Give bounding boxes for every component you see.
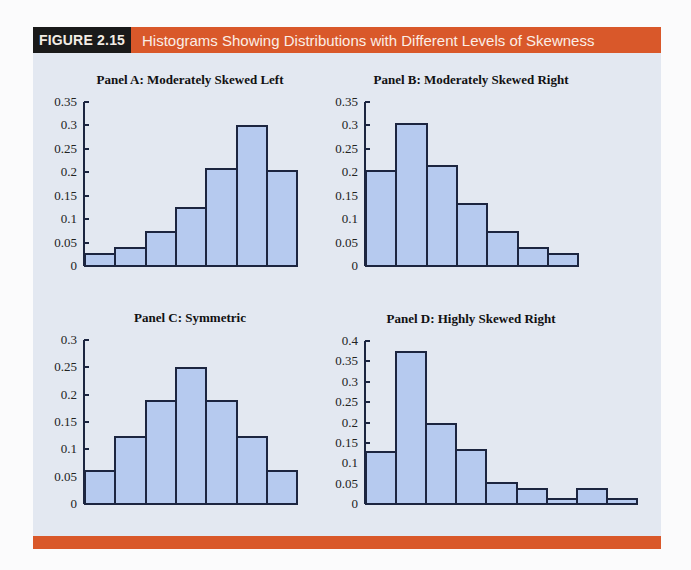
y-tick (365, 422, 370, 424)
y-tick (365, 401, 370, 403)
y-tick-label: 0.2 (318, 415, 358, 431)
y-tick (84, 366, 89, 368)
histogram-bar (175, 207, 207, 267)
y-tick-label: 0.05 (318, 235, 358, 251)
histogram-bar (84, 253, 116, 267)
y-tick-label: 0.1 (318, 455, 358, 471)
y-tick-label: 0.25 (318, 394, 358, 410)
histogram-bar (175, 367, 207, 505)
chart-title: Panel B: Moderately Skewed Right (374, 72, 569, 88)
y-tick (84, 242, 89, 244)
histogram-bar (606, 498, 638, 505)
y-tick (84, 448, 89, 450)
chart-title: Panel D: Highly Skewed Right (386, 311, 555, 327)
histogram-bar (547, 253, 579, 267)
y-tick-label: 0.05 (37, 469, 77, 485)
y-tick (365, 381, 370, 383)
y-tick (365, 442, 370, 444)
y-tick (84, 394, 89, 396)
histogram-bar (485, 482, 518, 505)
y-tick (84, 148, 89, 150)
y-tick-label: 0.25 (318, 141, 358, 157)
y-tick-label: 0.15 (318, 435, 358, 451)
y-tick-label: 0 (37, 258, 77, 274)
y-tick-label: 0.2 (318, 164, 358, 180)
figure-bottom-bar (33, 536, 661, 549)
histogram-bar (266, 470, 298, 505)
histogram-bar (365, 170, 397, 267)
y-tick (365, 360, 370, 362)
histogram-bar (266, 170, 298, 267)
histogram-bar (145, 400, 177, 505)
chart-title: Panel C: Symmetric (134, 310, 246, 326)
y-tick-label: 0.4 (318, 333, 358, 349)
y-tick-label: 0.15 (318, 188, 358, 204)
histogram-bar (84, 470, 116, 505)
y-tick-label: 0.1 (37, 211, 77, 227)
y-tick-label: 0.05 (318, 476, 358, 492)
chart-title: Panel A: Moderately Skewed Left (96, 72, 283, 88)
histogram-bar (395, 123, 428, 267)
y-tick-label: 0.15 (37, 414, 77, 430)
y-tick (84, 339, 89, 341)
y-tick (84, 218, 89, 220)
y-tick-label: 0 (318, 258, 358, 274)
histogram-bar (456, 203, 488, 267)
histogram-bar (486, 231, 519, 267)
histogram-bar (455, 449, 487, 505)
histogram-bar (114, 247, 147, 267)
y-tick-label: 0.25 (37, 359, 77, 375)
histogram-bar (205, 400, 238, 505)
y-tick-label: 0.3 (37, 332, 77, 348)
y-tick-label: 0.1 (37, 441, 77, 457)
histogram-bar (576, 488, 608, 505)
y-tick (84, 124, 89, 126)
y-tick-label: 0.3 (318, 374, 358, 390)
y-tick-label: 0.2 (37, 164, 77, 180)
histogram-bar (365, 451, 397, 505)
histogram-bar (236, 125, 268, 267)
figure-label: FIGURE 2.15 (33, 27, 131, 53)
y-tick-label: 0.05 (37, 235, 77, 251)
figure-title: Histograms Showing Distributions with Di… (131, 32, 594, 49)
histogram-bar (425, 423, 457, 506)
y-tick-label: 0.35 (318, 94, 358, 110)
histogram-bar (114, 436, 147, 505)
y-tick-label: 0.15 (37, 188, 77, 204)
histogram-bar (236, 436, 268, 505)
histogram-bar (546, 498, 578, 505)
histogram-bar (517, 247, 549, 267)
y-tick-label: 0.25 (37, 141, 77, 157)
y-tick-label: 0.2 (37, 387, 77, 403)
y-tick-label: 0.35 (37, 94, 77, 110)
histogram-bar (516, 488, 548, 505)
y-tick-label: 0.1 (318, 211, 358, 227)
y-tick (365, 124, 370, 126)
y-tick (84, 171, 89, 173)
figure-header: FIGURE 2.15 Histograms Showing Distribut… (33, 27, 661, 53)
histogram-bar (145, 231, 177, 267)
y-tick (84, 195, 89, 197)
y-tick-label: 0.3 (318, 117, 358, 133)
histogram-bar (395, 351, 427, 505)
y-tick (84, 101, 89, 103)
y-tick-label: 0.3 (37, 117, 77, 133)
y-tick (365, 340, 370, 342)
histogram-bar (426, 165, 458, 267)
y-tick (365, 101, 370, 103)
y-tick-label: 0 (37, 496, 77, 512)
y-tick-label: 0 (318, 496, 358, 512)
histogram-bar (205, 168, 238, 267)
y-tick (84, 421, 89, 423)
y-tick (365, 148, 370, 150)
y-tick-label: 0.35 (318, 353, 358, 369)
